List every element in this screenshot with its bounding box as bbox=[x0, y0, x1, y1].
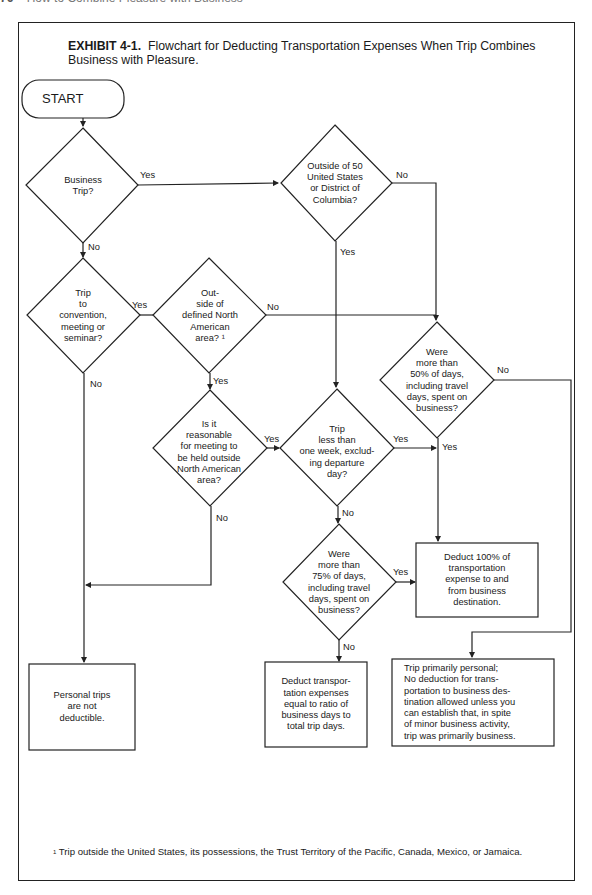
edge-label-outside-na-no: No bbox=[267, 302, 279, 313]
start-label: START bbox=[42, 91, 83, 106]
footnote-marker: 1 bbox=[53, 849, 56, 855]
edge-label-75pct-yes: Yes bbox=[393, 567, 408, 578]
edge-label-business-no: No bbox=[88, 242, 100, 253]
decision-less-than-week-text: Trip less than one week, exclud- ing dep… bbox=[282, 424, 392, 480]
decision-outside-50-states-text: Outside of 50 United States or District … bbox=[290, 161, 380, 206]
edge-label-50pct-yes: Yes bbox=[442, 442, 457, 453]
decision-convention-text: Trip to convention, meeting or seminar? bbox=[38, 288, 128, 344]
outcome-primarily-personal-text: Trip primarily personal; No deduction fo… bbox=[404, 660, 552, 745]
decision-reasonable-outside-text: Is it reasonable for meeting to be held … bbox=[156, 419, 262, 486]
decision-business-trip-text: Business Trip? bbox=[43, 175, 123, 197]
footnote: 1 Trip outside the United States, its po… bbox=[53, 846, 553, 858]
decision-outside-north-america-text: Out- side of defined North American area… bbox=[165, 288, 255, 344]
edge-label-convention-no: No bbox=[90, 379, 102, 390]
decision-more-than-50pct-text: Were more than 50% of days, including tr… bbox=[387, 347, 487, 414]
edge-label-reasonable-no: No bbox=[216, 513, 228, 524]
edge-label-outside50-no: No bbox=[396, 170, 408, 181]
outcome-personal-text: Personal trips are not deductible. bbox=[30, 665, 134, 749]
edge-label-outside50-yes: Yes bbox=[340, 247, 355, 258]
edge-label-outside-na-yes: Yes bbox=[213, 376, 228, 387]
edge-label-convention-yes: Yes bbox=[132, 300, 147, 311]
outcome-ratio-text: Deduct transpor- tation expenses equal t… bbox=[266, 663, 366, 746]
edge-label-75pct-no: No bbox=[343, 642, 355, 653]
decision-more-than-75pct-text: Were more than 75% of days, including tr… bbox=[289, 549, 389, 616]
edge-label-business-yes: Yes bbox=[140, 170, 155, 181]
edge-label-reasonable-yes: Yes bbox=[264, 434, 279, 445]
footnote-text: Trip outside the United States, its poss… bbox=[59, 846, 522, 857]
edge-label-week-no: No bbox=[342, 508, 354, 519]
edge-label-week-yes: Yes bbox=[393, 434, 408, 445]
outcome-deduct-100-text: Deduct 100% of transportation expense to… bbox=[417, 544, 537, 616]
edge-label-50pct-no: No bbox=[497, 365, 509, 376]
